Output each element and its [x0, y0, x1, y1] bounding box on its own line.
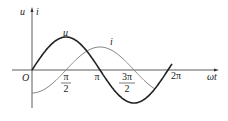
- tick-2pi: 2π: [171, 70, 181, 81]
- tick-half-pi-numerator: π: [63, 71, 68, 82]
- tick-half-pi-denominator: 2: [64, 83, 69, 94]
- waveform-diagram: u i O u i π 2 π 3π 2 2π ωt: [0, 0, 228, 121]
- tick-3half-pi-denominator: 2: [125, 83, 130, 94]
- y-axis-arrow-icon: [31, 7, 34, 12]
- x-axis-label: ωt: [207, 71, 217, 82]
- origin-label: O: [22, 72, 29, 83]
- tick-3half-pi-numerator: 3π: [122, 71, 132, 82]
- curve-label-i: i: [110, 36, 113, 47]
- curve-label-u: u: [63, 27, 68, 38]
- tick-pi: π: [94, 71, 99, 82]
- y-axis-label-i: i: [36, 6, 39, 17]
- y-axis-label-u: u: [20, 6, 25, 17]
